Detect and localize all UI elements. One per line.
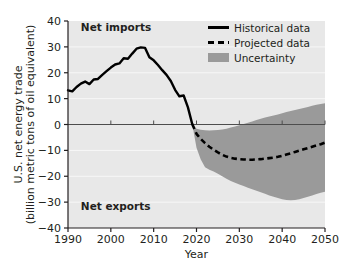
y-tick-label: 20 bbox=[47, 67, 61, 80]
y-axis-title-line2: (billion metric tons of oil equivalent) bbox=[24, 25, 37, 225]
annotation-net-imports: Net imports bbox=[81, 21, 151, 33]
x-tick-label: 2040 bbox=[268, 233, 296, 246]
energy-trade-line-chart: 403020100−10−20−30−40 199020002010202020… bbox=[0, 0, 339, 278]
legend-label-uncertainty: Uncertainty bbox=[234, 52, 295, 64]
legend-label-historical-data: Historical data bbox=[234, 22, 310, 34]
chart-legend: Historical data Projected data Uncertain… bbox=[208, 22, 310, 64]
y-tick-label: 30 bbox=[47, 41, 61, 54]
x-tick-label: 1990 bbox=[54, 233, 82, 246]
annotation-net-exports: Net exports bbox=[81, 200, 151, 212]
x-tick-label: 2000 bbox=[97, 233, 125, 246]
chart-figure: 403020100−10−20−30−40 199020002010202020… bbox=[0, 0, 339, 278]
y-tick-label: 0 bbox=[54, 119, 61, 132]
y-tick-label: −20 bbox=[38, 170, 61, 183]
x-tick-label: 2010 bbox=[140, 233, 168, 246]
y-tick-label: 40 bbox=[47, 15, 61, 28]
legend-marker-uncertainty bbox=[208, 53, 229, 62]
y-tick-label: 10 bbox=[47, 93, 61, 106]
x-axis-title: Year bbox=[184, 248, 209, 261]
x-tick-label: 2020 bbox=[183, 233, 211, 246]
y-tick-label: −10 bbox=[38, 144, 61, 157]
legend-label-projected-data: Projected data bbox=[234, 37, 310, 49]
x-tick-label: 2030 bbox=[225, 233, 253, 246]
x-tick-label: 2050 bbox=[311, 233, 339, 246]
y-tick-label: −30 bbox=[38, 196, 61, 209]
